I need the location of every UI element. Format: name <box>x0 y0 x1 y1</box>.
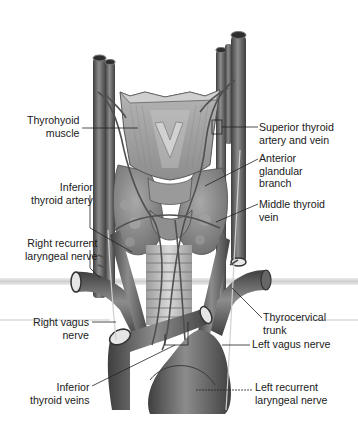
label-right-recurrent-laryngeal-nerve: Right recurrent laryngeal nerve <box>25 237 97 262</box>
label-thyrohyoid-muscle: Thyrohyoid muscle <box>27 114 79 139</box>
thyroid-anatomy-diagram: Thyrohyoid muscle Inferior thyroid arter… <box>0 0 358 432</box>
label-superior-thyroid-artery-and-vein: Superior thyroid artery and vein <box>259 121 334 146</box>
label-inferior-thyroid-veins: Inferior thyroid veins <box>30 381 89 406</box>
label-thyrocervical-trunk: Thyrocervical trunk <box>263 311 326 336</box>
label-middle-thyroid-vein: Middle thyroid vein <box>259 198 325 223</box>
label-anterior-glandular-branch: Anterior glandular branch <box>259 152 303 190</box>
label-right-vagus-nerve: Right vagus nerve <box>33 316 89 341</box>
label-inferior-thyroid-artery: Inferior thyroid artery <box>31 181 93 206</box>
label-left-vagus-nerve: Left vagus nerve <box>252 338 330 351</box>
label-left-recurrent-laryngeal-nerve: Left recurrent laryngeal nerve <box>255 381 327 406</box>
